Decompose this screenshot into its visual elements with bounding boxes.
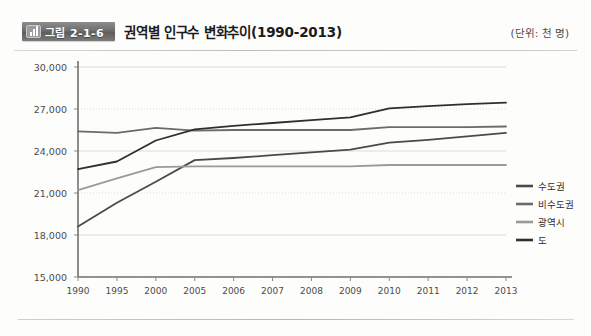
y-axis-tick-label: 21,000 (34, 188, 67, 199)
figure-page: 그림 2-1-6 권역별 인구수 변화추이(1990-2013) (단위: 천 … (0, 0, 591, 336)
x-axis-tick-label: 2012 (456, 286, 479, 296)
bar-chart-icon (26, 25, 41, 38)
x-axis-tick-label: 2009 (339, 286, 362, 296)
chart-area: 15,00018,00021,00024,00027,00030,0001990… (0, 52, 591, 302)
line-chart: 15,00018,00021,00024,00027,00030,0001990… (0, 52, 591, 302)
x-axis-tick-label: 1995 (105, 286, 128, 296)
x-axis-tick-label: 2007 (261, 286, 284, 296)
series-line (78, 127, 506, 133)
x-axis-tick-label: 2013 (495, 286, 518, 296)
y-axis-tick-label: 18,000 (34, 230, 67, 241)
figure-header: 그림 2-1-6 권역별 인구수 변화추이(1990-2013) (단위: 천 … (0, 0, 591, 50)
legend-label: 도 (538, 235, 547, 246)
y-axis-tick-label: 15,000 (34, 272, 67, 283)
legend-label: 비수도권 (538, 199, 574, 210)
series-line (78, 165, 506, 190)
y-axis-tick-label: 24,000 (34, 146, 67, 157)
x-axis-tick-label: 2010 (378, 286, 401, 296)
page-title: 권역별 인구수 변화추이(1990-2013) (124, 21, 342, 41)
unit-note: (단위: 천 명) (511, 25, 569, 40)
x-axis-tick-label: 2005 (183, 286, 206, 296)
footer-divider (18, 319, 574, 320)
y-axis-tick-label: 30,000 (34, 62, 67, 73)
legend-label: 수도권 (538, 181, 565, 192)
series-line (78, 103, 506, 170)
figure-number-badge: 그림 2-1-6 (22, 22, 115, 41)
header-divider (14, 50, 577, 51)
x-axis-tick-label: 2008 (300, 286, 323, 296)
legend-label: 광역시 (538, 217, 565, 228)
x-axis-tick-label: 2006 (222, 286, 245, 296)
figure-number-label: 그림 2-1-6 (45, 24, 104, 40)
y-axis-tick-label: 27,000 (34, 104, 67, 115)
x-axis-tick-label: 2011 (417, 286, 440, 296)
x-axis-tick-label: 2000 (144, 286, 167, 296)
x-axis-tick-label: 1990 (67, 286, 90, 296)
